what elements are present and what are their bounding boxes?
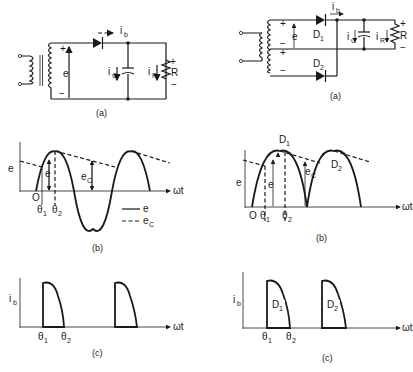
svg-text:+: + [400,18,406,29]
x-axis-label: ωt [173,185,184,196]
diode-d1-icon [316,15,325,25]
svg-text:R: R [152,72,157,79]
svg-text:b: b [13,299,17,306]
svg-text:i: i [347,31,349,42]
caption-a-left: (a) [96,108,107,118]
svg-text:i: i [376,31,378,42]
y-axis-label: e [8,163,14,174]
ir-label: i [148,66,150,77]
svg-text:b: b [237,300,241,307]
svg-text:1: 1 [279,305,283,312]
svg-text:ωt: ωt [173,321,184,332]
svg-text:2: 2 [338,165,342,172]
svg-text:2: 2 [292,337,296,344]
svg-text:2: 2 [67,337,71,344]
svg-text:e: e [236,177,242,188]
minus-label: − [59,88,65,99]
full-wave-circuit [239,14,399,82]
svg-text:−: − [280,65,286,76]
emf-label: e [63,68,69,79]
svg-text:R: R [400,30,407,41]
rectifier-figure: + − e i b i C i R R + − (a) e ωt O θ 1 θ… [0,0,413,372]
svg-text:+: + [170,56,176,67]
caption-a-right: (a) [330,91,341,101]
svg-text:ωt: ωt [402,322,413,333]
svg-text:O: O [249,210,257,221]
ib-axis-label: i [9,293,11,304]
svg-text:C: C [351,37,356,44]
svg-text:C: C [149,221,154,228]
caption-b-right: (b) [316,233,327,243]
svg-text:1: 1 [286,140,290,147]
svg-text:+: + [280,47,286,58]
primary-coil-icon [260,33,263,61]
r-label: R [171,67,178,78]
plus-label: + [60,43,66,54]
svg-text:ωt: ωt [402,201,413,212]
svg-text:1: 1 [43,210,47,217]
origin-label: O [32,192,40,203]
diode-d2-icon [316,71,325,81]
ib-label: i [120,25,122,36]
legend-e: e [143,203,149,214]
full-wave-waveform [243,150,400,221]
svg-text:2: 2 [334,305,338,312]
svg-text:+: + [280,18,286,29]
svg-text:i: i [233,294,235,305]
svg-text:C: C [87,177,92,184]
svg-text:1: 1 [320,35,324,42]
svg-text:2: 2 [288,216,292,223]
primary-coil-icon [30,56,33,84]
svg-text:2: 2 [320,64,324,71]
svg-text:1: 1 [268,337,272,344]
svg-text:1: 1 [266,216,270,223]
ic-label: i [108,66,110,77]
svg-text:b: b [336,7,340,14]
caption-c-left: (c) [92,348,103,358]
svg-text:2: 2 [58,210,62,217]
svg-text:i: i [332,1,334,12]
half-wave-current [20,278,170,328]
diode-icon [93,38,102,48]
svg-text:−: − [171,79,177,90]
transformer-core-icon [40,55,43,86]
current-pulse-1 [43,283,64,327]
svg-text:e: e [292,31,298,42]
caption-c-right: (c) [322,353,333,363]
terminal-icon [18,82,21,85]
svg-text:C: C [311,172,316,179]
full-wave-current [243,272,400,329]
caption-b-left: (b) [92,243,103,253]
svg-text:b: b [124,31,128,38]
svg-text:−: − [400,42,406,53]
resistor-icon [365,20,399,49]
center-tap-secondary-icon [268,20,271,73]
svg-text:e: e [268,179,274,190]
svg-text:R: R [380,37,385,44]
terminal-icon [18,54,21,57]
svg-text:C: C [112,72,117,79]
svg-text:1: 1 [44,337,48,344]
e-marker-label: e [45,168,51,179]
secondary-coil-icon [49,43,52,99]
current-pulse-2 [115,283,137,327]
